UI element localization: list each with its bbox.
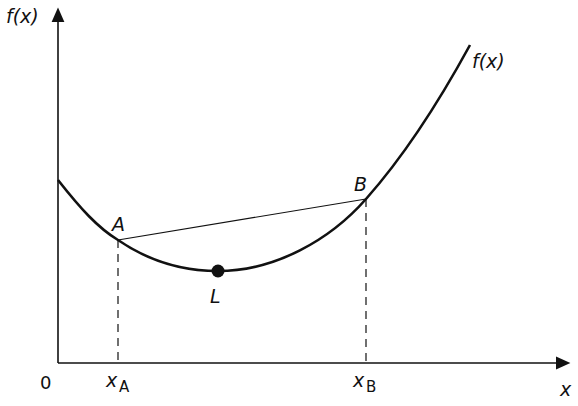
y-axis-label: f(x)	[6, 5, 39, 27]
x-a-label: x	[105, 369, 118, 391]
convex-function-diagram: f(x) f(x) x 0 A B L x A x B	[0, 0, 578, 406]
function-curve	[58, 45, 470, 271]
x-a-subscript: A	[119, 378, 130, 396]
minimum-point-l	[212, 265, 225, 278]
point-b-label: B	[354, 173, 367, 195]
point-a-label: A	[110, 213, 125, 235]
x-axis-label: x	[559, 378, 572, 400]
curve-label: f(x)	[472, 50, 505, 72]
x-b-subscript: B	[366, 378, 376, 396]
origin-label: 0	[40, 372, 51, 393]
point-l-label: L	[210, 285, 221, 307]
x-b-label: x	[352, 369, 365, 391]
